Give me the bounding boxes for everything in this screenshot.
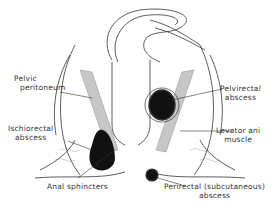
pelvic-wall-right: [194, 45, 214, 175]
pelvirectal-abscess: [149, 90, 175, 120]
label-pelvirectal-abscess: Pelvirectal abscess: [220, 84, 261, 102]
skin-line: [35, 172, 245, 178]
rectum-wall-right: [138, 60, 150, 145]
label-anal-sphincters: Anal sphincters: [47, 182, 108, 191]
label-pelvic-peritoneum: Pelvic peritoneum: [14, 74, 66, 92]
perirectal-abscess: [146, 169, 158, 181]
sigmoid-colon: [107, 9, 186, 62]
anorectal-abscess-diagram: [0, 0, 274, 209]
pelvic-wall-left: [61, 45, 80, 175]
label-perirectal-abscess: Perirectal (subcutaneous) abscess: [164, 182, 265, 200]
rectum-wall-left: [112, 62, 125, 145]
label-ischiorectal-abscess: Ischiorectal abscess: [8, 124, 53, 142]
label-levator-ani-muscle: Levator ani muscle: [216, 126, 260, 144]
